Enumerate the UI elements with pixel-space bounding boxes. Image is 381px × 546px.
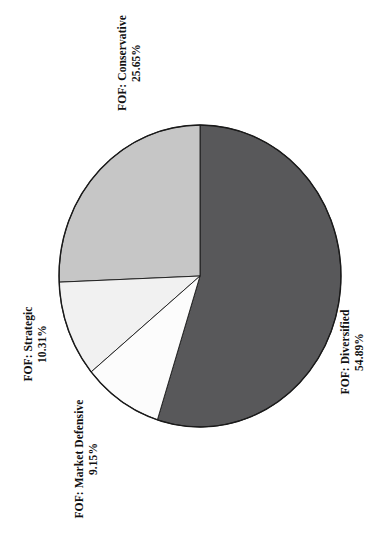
slice-label-market-defensive-value: 9.15% [86,369,100,546]
pie-chart: FOF: Conservative 25.65% FOF: Diversifie… [0,0,381,546]
slice-label-diversified-name: FOF: Diversified [338,277,352,427]
slice-label-conservative-name: FOF: Conservative [115,0,129,138]
slice-label-market-defensive: FOF: Market Defensive 9.15% [72,369,102,546]
slice-label-strategic: FOF: Strategic 10.31% [21,284,51,404]
slice-label-diversified-value: 54.89% [352,277,366,427]
slice-label-conservative: FOF: Conservative 25.65% [115,0,145,138]
pie-slice-conservative[interactable] [59,125,200,282]
pie-chart-canvas [0,0,381,546]
slice-label-strategic-value: 10.31% [35,284,49,404]
slice-label-market-defensive-name: FOF: Market Defensive [72,369,86,546]
slice-label-strategic-name: FOF: Strategic [21,284,35,404]
slice-label-diversified: FOF: Diversified 54.89% [338,277,368,427]
slice-label-conservative-value: 25.65% [129,0,143,138]
